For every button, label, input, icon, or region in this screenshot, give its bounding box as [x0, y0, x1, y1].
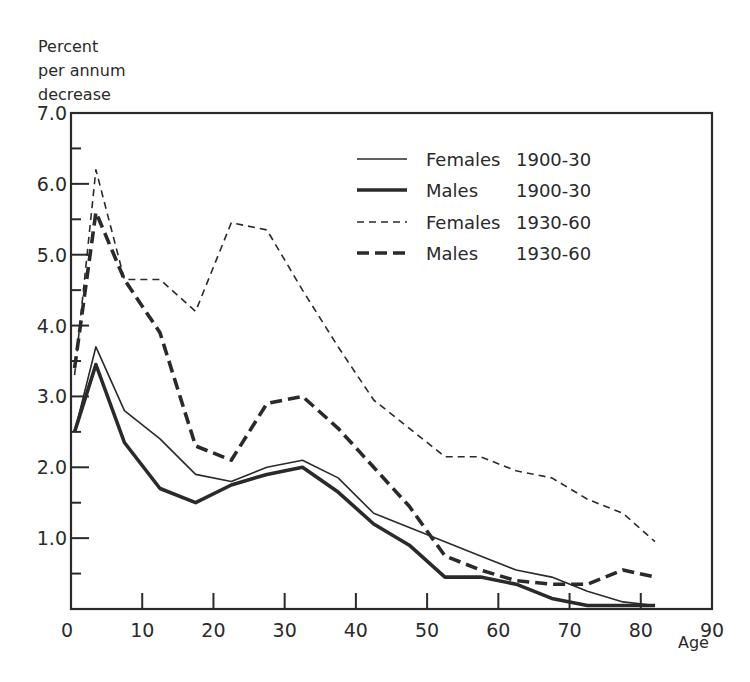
x-tick-label: 20	[201, 619, 225, 641]
y-axis-title-line-2: per annum	[38, 61, 125, 80]
legend-label: Males	[426, 180, 478, 201]
legend-item-males-1930-60: Males 1930-60	[357, 243, 591, 264]
legend-label: Males	[426, 243, 478, 264]
y-tick-label: 1.0	[37, 527, 67, 549]
x-tick-label: 80	[629, 619, 653, 641]
x-tick-label: 30	[273, 619, 297, 641]
y-axis-title: Percent per annum decrease	[38, 37, 125, 104]
legend-label: Females	[426, 149, 500, 170]
legend-label: Females	[426, 212, 500, 233]
x-tick-label: 10	[130, 619, 154, 641]
y-tick-label: 3.0	[37, 385, 67, 407]
series-line-females-1900-30	[75, 347, 655, 606]
x-tick-label: 70	[557, 619, 581, 641]
y-tick-label: 2.0	[37, 456, 67, 478]
legend-item-females-1900-30: Females 1900-30	[357, 149, 591, 170]
x-tick-label: 0	[61, 619, 73, 641]
series-line-males-1900-30	[75, 365, 655, 606]
legend-period: 1930-60	[516, 212, 591, 233]
legend-item-females-1930-60: Females 1930-60	[357, 212, 591, 233]
legend-item-males-1900-30: Males 1900-30	[357, 180, 591, 201]
x-axis-title: Age	[678, 633, 709, 652]
legend-period: 1930-60	[516, 243, 591, 264]
x-axis-ticks: 0102030405060708090	[61, 593, 724, 641]
legend-period: 1900-30	[516, 180, 591, 201]
legend-period: 1900-30	[516, 149, 591, 170]
legend: Females 1900-30 Males 1900-30 Females 19…	[357, 149, 591, 264]
x-tick-label: 60	[486, 619, 510, 641]
y-tick-label: 4.0	[37, 315, 67, 337]
y-axis-ticks: 1.02.03.04.05.06.07.0	[37, 102, 89, 574]
series-line-males-1930-60	[75, 212, 655, 584]
y-axis-title-line-1: Percent	[38, 37, 98, 56]
line-chart: Percent per annum decrease 1.02.03.04.05…	[0, 0, 750, 682]
y-tick-label: 6.0	[37, 173, 67, 195]
series-lines	[75, 170, 655, 606]
y-tick-label: 5.0	[37, 244, 67, 266]
x-tick-label: 40	[344, 619, 368, 641]
y-tick-label: 7.0	[37, 102, 67, 124]
x-tick-label: 50	[415, 619, 439, 641]
